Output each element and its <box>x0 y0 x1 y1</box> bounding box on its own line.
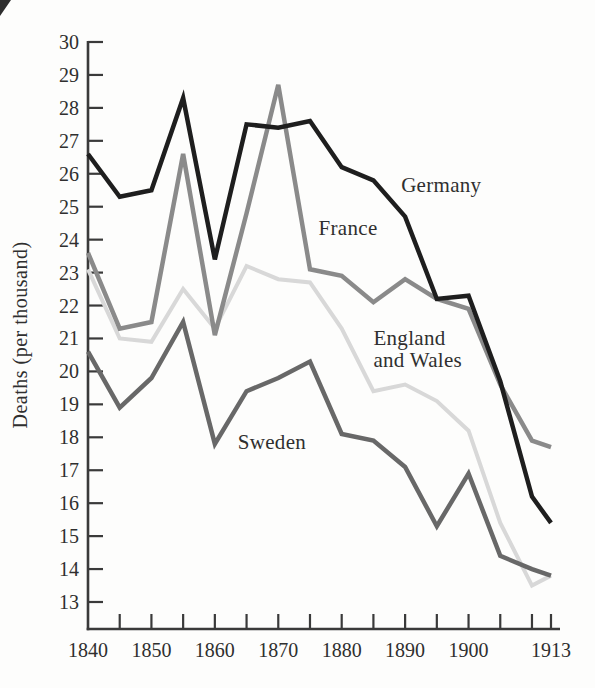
y-tick-label: 18 <box>59 426 79 448</box>
scan-artifact-mark <box>0 0 11 16</box>
y-tick-label: 20 <box>59 360 79 382</box>
y-tick-label: 22 <box>59 295 79 317</box>
x-tick-label: 1870 <box>258 639 298 661</box>
england-and-wales-line <box>88 266 551 586</box>
x-tick-label: 1900 <box>449 639 489 661</box>
sweden-label-line: Sweden <box>238 430 306 454</box>
y-tick-label: 17 <box>59 459 79 481</box>
y-tick-label: 23 <box>59 262 79 284</box>
y-tick-label: 27 <box>59 130 79 152</box>
y-tick-label: 30 <box>59 31 79 53</box>
germany-label-line: Germany <box>401 173 481 197</box>
x-tick-label: 1860 <box>195 639 235 661</box>
y-tick-label: 14 <box>59 558 79 580</box>
x-tick-label: 1890 <box>385 639 425 661</box>
mortality-decline-chart: 1314151617181920212223242526272829301840… <box>0 0 595 688</box>
y-tick-label: 26 <box>59 163 79 185</box>
y-axis-title: Deaths (per thousand) <box>9 241 32 428</box>
england-and-wales-label-line: and Wales <box>373 348 462 372</box>
y-tick-label: 19 <box>59 393 79 415</box>
england-and-wales-label-line: England <box>373 326 445 350</box>
sweden-line <box>88 322 551 576</box>
x-tick-label: 1913 <box>531 639 571 661</box>
sweden-label: Sweden <box>238 430 306 454</box>
france-line <box>88 85 551 447</box>
x-tick-label: 1840 <box>68 639 108 661</box>
y-tick-label: 28 <box>59 97 79 119</box>
france-label-line: France <box>319 216 378 240</box>
y-tick-label: 24 <box>59 229 79 251</box>
germany-label: Germany <box>401 173 481 197</box>
y-tick-label: 13 <box>59 591 79 613</box>
y-tick-label: 21 <box>59 327 79 349</box>
france-label: France <box>319 216 378 240</box>
y-tick-label: 29 <box>59 64 79 86</box>
y-tick-label: 16 <box>59 492 79 514</box>
england-and-wales-label: Englandand Wales <box>373 326 462 372</box>
y-tick-label: 15 <box>59 525 79 547</box>
chart-canvas: 1314151617181920212223242526272829301840… <box>0 0 595 688</box>
x-tick-label: 1880 <box>322 639 362 661</box>
y-tick-label: 25 <box>59 196 79 218</box>
x-tick-label: 1850 <box>131 639 171 661</box>
germany-line <box>88 98 551 523</box>
